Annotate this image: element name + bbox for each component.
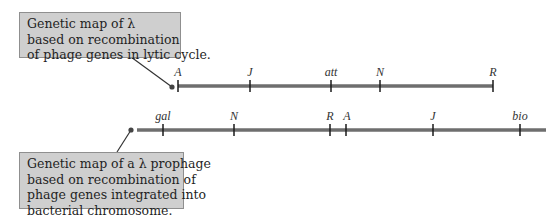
- prophage-label-bio: bio: [512, 109, 527, 123]
- lytic-label-A: A: [173, 65, 182, 79]
- prophage-label-A: A: [342, 109, 351, 123]
- bottom-callout-dot: [128, 127, 133, 132]
- lytic-label-R: R: [488, 65, 497, 79]
- prophage-label-N: N: [229, 109, 239, 123]
- callout-line: based on recombination: [27, 32, 174, 48]
- callout-line: Genetic map of λ: [27, 16, 174, 32]
- lytic-map: A J att N R: [173, 65, 497, 92]
- callout-line: based on recombination of: [27, 172, 177, 188]
- prophage-map-callout: Genetic map of a λ prophage based on rec…: [19, 152, 184, 209]
- callout-line: of phage genes in lytic cycle.: [27, 47, 174, 63]
- top-callout-dot: [169, 84, 174, 89]
- callout-line: bacterial chromosome.: [27, 203, 177, 219]
- lytic-label-att: att: [325, 65, 338, 79]
- callout-line: Genetic map of a λ prophage: [27, 156, 177, 172]
- prophage-label-R: R: [325, 109, 334, 123]
- prophage-label-gal: gal: [155, 109, 171, 123]
- prophage-map: gal N R A J bio: [137, 109, 546, 136]
- lytic-label-N: N: [375, 65, 385, 79]
- prophage-label-J: J: [430, 109, 436, 123]
- lytic-map-callout: Genetic map of λ based on recombination …: [19, 12, 181, 58]
- callout-line: phage genes integrated into: [27, 187, 177, 203]
- lytic-label-J: J: [247, 65, 253, 79]
- bottom-callout-leader: [117, 130, 131, 152]
